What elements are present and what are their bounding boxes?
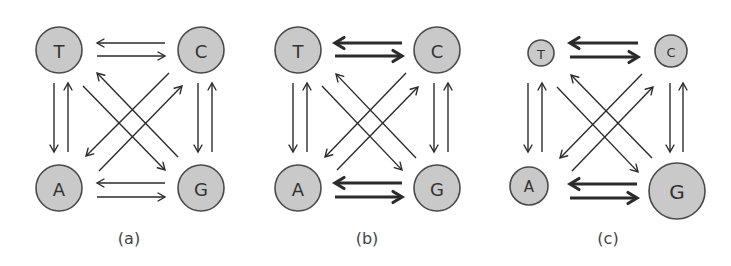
arrow-g-to-t [336, 74, 416, 158]
arrow-a-to-t [538, 83, 546, 152]
arrow-g-to-t [97, 73, 178, 157]
arrow-t-to-g [322, 86, 402, 170]
node-a: A [510, 167, 548, 205]
node-t: T [275, 27, 321, 73]
arrow-shaft [325, 73, 406, 157]
arrow-a-to-t [303, 83, 311, 152]
node-label: T [536, 47, 545, 62]
node-g: G [414, 165, 460, 211]
arrow-a-to-g [335, 192, 402, 203]
arrow-t-to-a [524, 83, 532, 152]
arrow-shaft [336, 74, 416, 158]
arrow-c-to-t [97, 39, 165, 47]
arrow-t-to-a [289, 83, 297, 152]
arrow-g-to-c [679, 83, 687, 152]
panel-b: TCAG(b) [275, 27, 460, 248]
arrow-c-to-t [570, 38, 638, 49]
arrow-shaft [560, 74, 642, 158]
arrow-a-to-t [64, 83, 72, 152]
arrow-g-to-t [571, 75, 652, 158]
arrow-shaft [322, 86, 402, 170]
panel-label: (c) [597, 229, 618, 248]
arrow-t-to-a [50, 83, 58, 152]
arrow-a-to-g [97, 193, 165, 201]
arrow-shaft [557, 87, 638, 172]
node-t: T [528, 40, 554, 66]
arrow-shaft [97, 73, 178, 157]
substitution-diagram-figure: TCAG(a)TCAG(b)TCAG(c) [0, 0, 731, 266]
node-c: C [178, 27, 224, 73]
arrow-t-to-g [83, 86, 165, 170]
arrow-c-to-g [666, 83, 674, 152]
arrow-c-to-a [560, 74, 642, 158]
arrow-shaft [83, 86, 165, 170]
node-a: A [36, 165, 82, 211]
panel-c: TCAG(c) [510, 35, 705, 248]
node-label: T [53, 41, 66, 62]
arrow-c-to-g [194, 83, 202, 152]
diagram-canvas: TCAG(a)TCAG(b)TCAG(c) [0, 0, 731, 266]
node-label: G [669, 180, 685, 204]
arrow-a-to-c [572, 87, 653, 171]
arrow-shaft [571, 75, 652, 158]
arrow-t-to-c [570, 52, 638, 63]
arrow-shaft [99, 86, 182, 171]
arrow-c-to-t [335, 38, 402, 49]
node-label: C [195, 41, 208, 62]
node-g: G [178, 165, 224, 211]
arrow-shaft [572, 87, 653, 171]
arrow-shaft [337, 87, 418, 170]
arrow-a-to-c [337, 87, 418, 170]
arrow-g-to-c [444, 83, 452, 152]
node-label: A [53, 179, 66, 200]
node-label: G [194, 179, 208, 200]
arrow-c-to-g [430, 83, 438, 152]
arrow-c-to-a [86, 73, 169, 156]
arrow-g-to-c [208, 83, 216, 152]
panel-label: (b) [356, 229, 379, 248]
node-label: C [666, 45, 675, 60]
arrow-t-to-g [557, 87, 638, 172]
arrow-c-to-a [325, 73, 406, 157]
arrow-g-to-a [97, 179, 165, 187]
arrow-g-to-a [570, 179, 637, 190]
node-g: G [649, 163, 705, 219]
node-a: A [275, 165, 321, 211]
node-t: T [36, 27, 82, 73]
node-c: C [414, 27, 460, 73]
node-label: T [292, 41, 305, 62]
arrow-shaft [86, 73, 169, 156]
node-label: A [292, 179, 305, 200]
arrow-g-to-a [335, 178, 402, 189]
node-label: C [431, 41, 444, 62]
node-label: G [430, 179, 444, 200]
panel-label: (a) [118, 229, 140, 248]
node-label: A [524, 178, 535, 196]
node-c: C [655, 35, 687, 67]
arrow-a-to-g [570, 193, 637, 204]
panel-a: TCAG(a) [36, 27, 224, 248]
arrow-a-to-c [99, 86, 182, 171]
arrow-t-to-c [97, 52, 165, 60]
arrow-t-to-c [335, 51, 402, 62]
